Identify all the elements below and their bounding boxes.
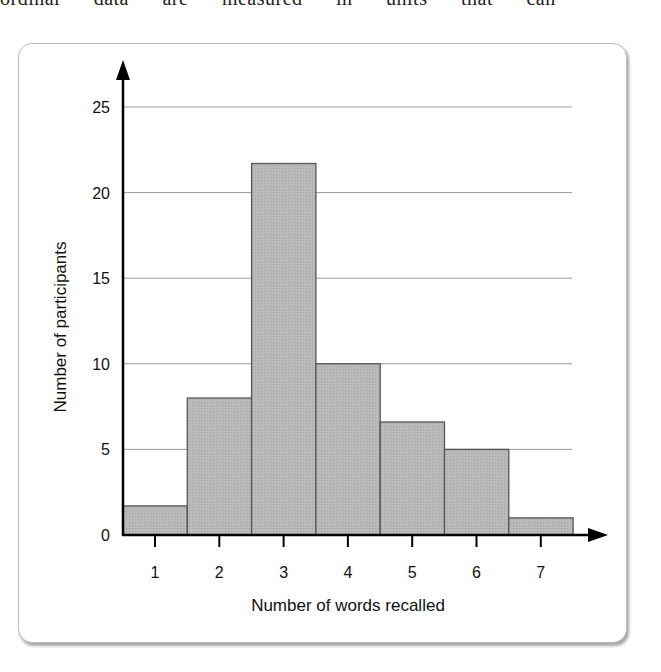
bars: [123, 163, 573, 535]
histogram-bar: [380, 422, 444, 535]
x-tick-label: 1: [151, 564, 160, 581]
y-tick-labels: 0510152025: [92, 99, 110, 544]
histogram-bar: [252, 163, 316, 535]
x-tick-label: 2: [215, 564, 224, 581]
y-tick-label: 5: [101, 441, 110, 458]
histogram-chart: 0510152025 1234567 Number of words recal…: [0, 0, 661, 672]
x-tick-label: 4: [343, 564, 352, 581]
y-axis-label: Number of participants: [51, 241, 70, 412]
y-axis-arrow-icon: [116, 60, 130, 80]
y-tick-label: 20: [92, 185, 110, 202]
y-tick-label: 0: [101, 527, 110, 544]
histogram-bar: [123, 506, 187, 535]
x-axis-arrow-icon: [588, 528, 608, 542]
y-tick-label: 10: [92, 356, 110, 373]
histogram-bar: [316, 364, 380, 535]
histogram-bar: [187, 398, 251, 535]
y-tick-label: 15: [92, 270, 110, 287]
x-tick-label: 6: [472, 564, 481, 581]
histogram-bar: [509, 518, 573, 535]
x-tick-labels: 1234567: [151, 535, 546, 581]
x-tick-label: 3: [279, 564, 288, 581]
x-tick-label: 5: [408, 564, 417, 581]
y-tick-label: 25: [92, 99, 110, 116]
x-tick-label: 7: [536, 564, 545, 581]
histogram-bar: [445, 449, 509, 535]
x-axis-label: Number of words recalled: [251, 596, 445, 615]
